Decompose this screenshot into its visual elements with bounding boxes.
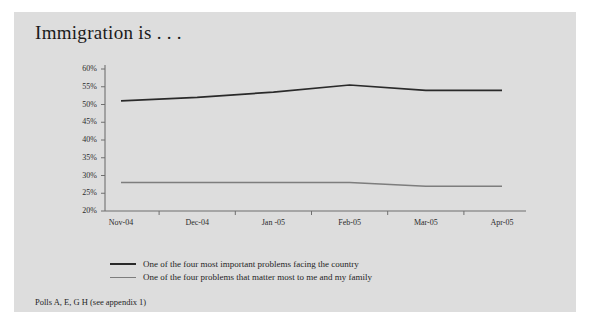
x-axis-tick-label: Mar-05 <box>399 218 453 227</box>
chart-legend: One of the four most important problems … <box>110 258 510 284</box>
y-axis-tick-label: 30% <box>71 171 97 180</box>
y-axis-tick-label: 45% <box>71 117 97 126</box>
source-footnote: Polls A, E, G H (see appendix 1) <box>35 297 146 307</box>
legend-line-swatch <box>110 277 136 278</box>
x-axis-tick-label: Apr-05 <box>475 218 529 227</box>
y-axis-tick-label: 60% <box>71 64 97 73</box>
y-axis-tick-label: 50% <box>71 100 97 109</box>
y-axis-tick-label: 35% <box>71 153 97 162</box>
figure-panel: Immigration is . . . 20%25%30%35%40%45%5… <box>14 12 576 312</box>
y-axis-tick-label: 55% <box>71 82 97 91</box>
x-axis-tick-label: Dec-04 <box>170 218 224 227</box>
chart-series <box>121 85 502 186</box>
y-axis-tick-label: 40% <box>71 135 97 144</box>
y-axis-tick-label: 20% <box>71 206 97 215</box>
legend-item-label: One of the four most important problems … <box>143 259 359 270</box>
x-axis-tick-label: Nov-04 <box>94 218 148 227</box>
x-axis-tick-label: Feb-05 <box>323 218 377 227</box>
legend-item: One of the four problems that matter mos… <box>110 271 510 283</box>
data-line-series-1 <box>121 85 502 101</box>
legend-line-swatch <box>110 263 136 265</box>
x-axis-tick-label: Jan -05 <box>246 218 300 227</box>
y-axis-tick-label: 25% <box>71 188 97 197</box>
legend-item-label: One of the four problems that matter mos… <box>143 272 372 283</box>
legend-item: One of the four most important problems … <box>110 258 510 270</box>
data-line-series-2 <box>121 183 502 187</box>
